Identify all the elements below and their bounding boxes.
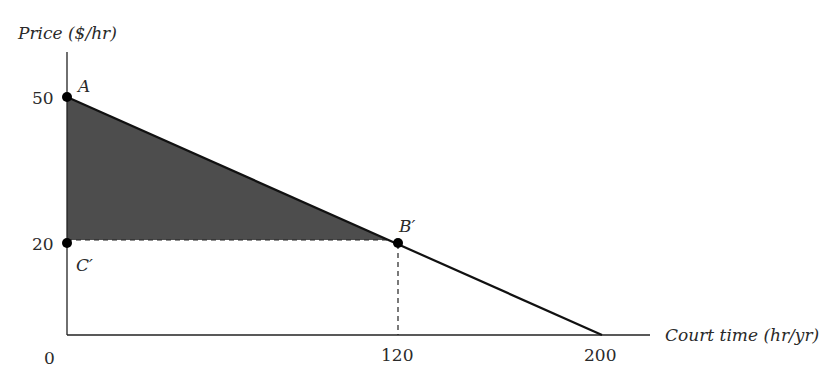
y-tick-50: 50 bbox=[32, 88, 54, 108]
x-tick-120: 120 bbox=[381, 345, 413, 365]
point-a-label: A bbox=[76, 76, 90, 96]
y-tick-20: 20 bbox=[32, 234, 54, 254]
point-b-label: B′ bbox=[398, 216, 415, 236]
point-c-label: C′ bbox=[76, 255, 93, 275]
x-axis-label: Court time (hr/yr) bbox=[665, 325, 819, 345]
point-a-marker bbox=[62, 92, 72, 102]
point-b-marker bbox=[393, 238, 403, 248]
point-c-marker bbox=[62, 238, 72, 248]
x-tick-0: 0 bbox=[44, 348, 55, 368]
y-axis-label: Price ($/hr) bbox=[17, 23, 117, 43]
x-tick-200: 200 bbox=[584, 345, 616, 365]
chart-canvas: Price ($/hr) Court time (hr/yr) 50 20 0 … bbox=[0, 0, 839, 384]
